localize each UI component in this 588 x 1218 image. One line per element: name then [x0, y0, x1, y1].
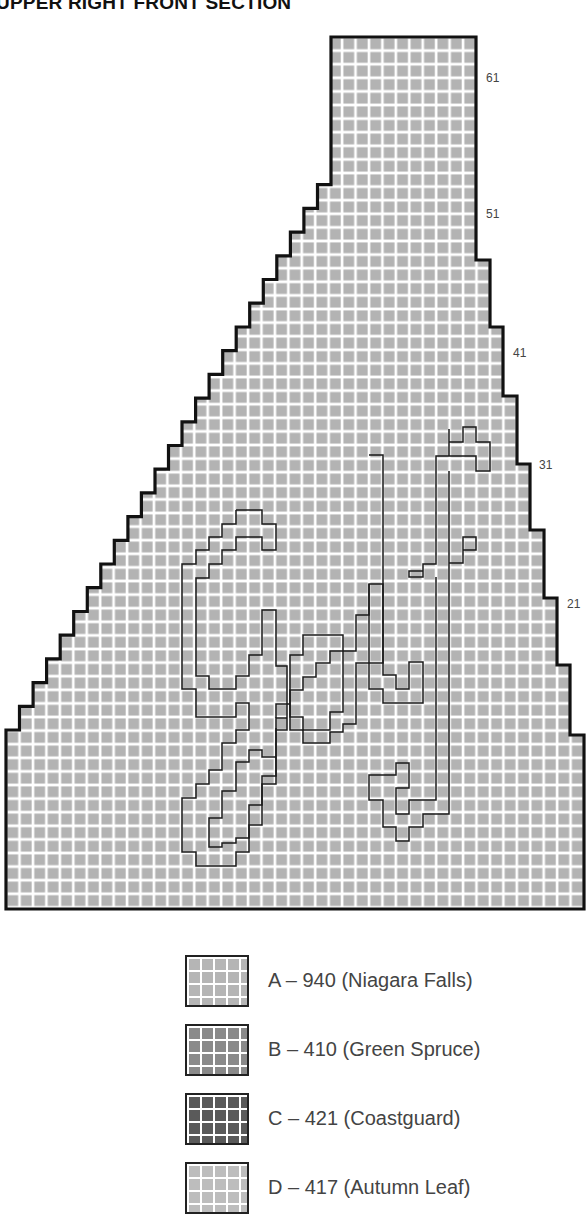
row-label-61: 61: [486, 71, 499, 85]
legend-label-d: D – 417 (Autumn Leaf): [268, 1176, 470, 1199]
row-label-21: 21: [567, 597, 580, 611]
row-label-31: 31: [539, 458, 552, 472]
knitting-chart: [0, 0, 588, 930]
legend-label-b: B – 410 (Green Spruce): [268, 1038, 480, 1061]
chart-grid-area: [6, 37, 584, 909]
legend-item-a: A – 940 (Niagara Falls): [185, 946, 480, 1015]
legend-label-a: A – 940 (Niagara Falls): [268, 969, 473, 992]
row-label-51: 51: [486, 207, 499, 221]
swatch-d-icon: [185, 1162, 249, 1214]
swatch-a-icon: [185, 955, 249, 1007]
legend-item-d: D – 417 (Autumn Leaf): [185, 1153, 480, 1218]
legend: A – 940 (Niagara Falls) B – 410 (Green S…: [185, 946, 480, 1218]
legend-item-c: C – 421 (Coastguard): [185, 1084, 480, 1153]
swatch-c-icon: [185, 1093, 249, 1145]
row-label-41: 41: [513, 346, 526, 360]
legend-label-c: C – 421 (Coastguard): [268, 1107, 460, 1130]
legend-item-b: B – 410 (Green Spruce): [185, 1015, 480, 1084]
swatch-b-icon: [185, 1024, 249, 1076]
